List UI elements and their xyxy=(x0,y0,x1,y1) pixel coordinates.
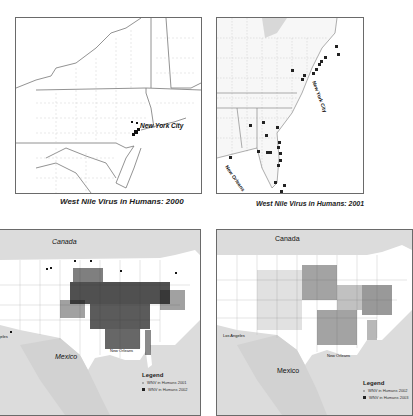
legend-row: WNV in Humans 2002 xyxy=(142,387,188,392)
square-icon xyxy=(142,388,145,391)
northeast-map xyxy=(16,18,201,193)
caption-2001: West Nile Virus in Humans: 2001 xyxy=(256,200,364,207)
legend-row: WNV in Humans 2003 xyxy=(363,395,409,400)
label-los-angeles-2002: Los Angeles xyxy=(0,334,8,339)
east-coast-map xyxy=(217,18,363,193)
legend-2002: Legend WNV in Humans 2001 WNV in Humans … xyxy=(142,372,188,394)
map-panel-2003: Canada Mexico Los Angeles New Orleans Le… xyxy=(216,229,413,416)
dot-icon xyxy=(363,390,365,392)
map-panel-2000: New York City xyxy=(15,17,202,194)
legend-title: Legend xyxy=(363,380,409,386)
label-new-orleans-2002: New Orleans xyxy=(110,348,133,353)
dot-icon xyxy=(142,382,144,384)
square-icon xyxy=(363,396,366,399)
caption-2000: West Nile Virus in Humans: 2000 xyxy=(60,197,184,206)
legend-title: Legend xyxy=(142,372,188,378)
label-canada-2003: Canada xyxy=(275,235,300,242)
label-mexico-2003: Mexico xyxy=(277,367,299,374)
label-los-angeles-2003: Los Angeles xyxy=(223,333,245,338)
label-canada-2002: Canada xyxy=(52,238,77,245)
legend-2003: Legend WNV in Humans 2002 WNV in Humans … xyxy=(363,380,409,402)
legend-row: WNV in Humans 2001 xyxy=(142,380,188,385)
label-mexico-2002: Mexico xyxy=(55,353,77,360)
map-panel-2001: New York City New Orleans xyxy=(216,17,364,194)
legend-row: WNV in Humans 2002 xyxy=(363,388,409,393)
label-new-york-city: New York City xyxy=(140,122,183,129)
label-new-orleans-2003: New Orleans xyxy=(327,353,350,358)
map-panel-2002: Canada Mexico Los Angeles New Orleans Le… xyxy=(0,229,201,416)
